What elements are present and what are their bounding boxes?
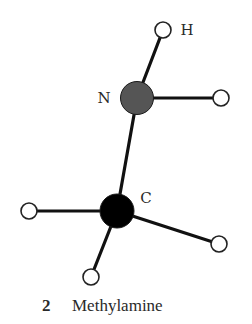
figure-title: Methylamine: [72, 296, 163, 316]
bonds: [29, 30, 221, 277]
atom-hydrogen-h4: [83, 269, 99, 285]
atom-label-hydrogen: H: [180, 23, 193, 38]
atoms: [21, 22, 229, 285]
atom-hydrogen-h2: [213, 90, 229, 106]
atom-hydrogen-h1: [155, 22, 171, 38]
atom-label-carbon: C: [140, 191, 151, 206]
atom-label-nitrogen: N: [97, 91, 110, 106]
methylamine-diagram: N C H 2 Methylamine: [0, 0, 252, 324]
molecule-ball-and-stick-model: [0, 0, 252, 324]
figure-number: 2: [42, 296, 51, 316]
atom-hydrogen-h5: [211, 236, 227, 252]
atom-carbon-c: [100, 194, 134, 228]
atom-nitrogen-n: [121, 82, 154, 115]
atom-hydrogen-h3: [21, 203, 37, 219]
